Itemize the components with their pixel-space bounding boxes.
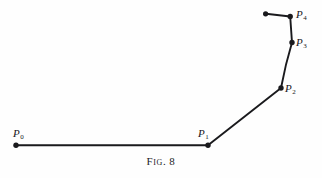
point-label-p1: P1 [198, 128, 208, 139]
point-label-p2-subscript: 2 [292, 88, 296, 96]
segment-p1-p2 [208, 88, 281, 145]
point-label-p3-subscript: 3 [303, 42, 307, 50]
point-label-p1-text: P [198, 127, 205, 139]
point-label-p1-subscript: 1 [205, 133, 209, 141]
figure-caption-number: 8 [169, 155, 175, 167]
point-label-p0-subscript: 0 [20, 133, 24, 141]
point-marker-p2 [278, 85, 283, 90]
figure-page: P0 P1 P2 P3 P4 Fig.8 [0, 0, 322, 178]
point-marker-p3 [289, 40, 294, 45]
point-label-p2-text: P [285, 82, 292, 94]
figure-caption: Fig.8 [0, 155, 322, 167]
point-label-p4: P4 [296, 9, 306, 20]
point-label-p4-text: P [296, 8, 303, 20]
point-marker-p0 [13, 143, 18, 148]
point-label-p0-text: P [13, 127, 20, 139]
control-polygon-diagram [0, 0, 322, 178]
segment-p3-p4 [290, 17, 292, 43]
point-marker-p1 [205, 143, 210, 148]
point-label-p3: P3 [296, 37, 306, 48]
point-label-p2: P2 [285, 83, 295, 94]
point-marker-p4 [288, 14, 293, 19]
point-marker-hook-end [263, 11, 268, 16]
point-label-p3-text: P [296, 36, 303, 48]
segment-p4-hook [266, 14, 290, 17]
point-label-p0: P0 [13, 128, 23, 139]
point-label-p4-subscript: 4 [303, 14, 307, 22]
figure-caption-label: Fig. [147, 155, 167, 167]
